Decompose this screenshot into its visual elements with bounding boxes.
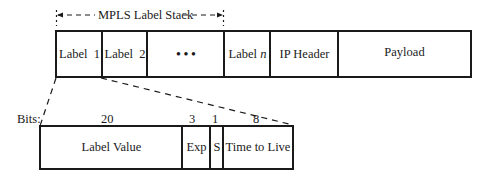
field-ttl: Time to Live xyxy=(222,127,292,168)
cell-text: Label xyxy=(229,47,261,62)
cell-text: Payload xyxy=(384,45,424,60)
bits-count-s: 1 xyxy=(212,112,218,126)
field-text: Exp xyxy=(186,140,206,155)
stack-span-label: MPLS Label Stack xyxy=(98,8,193,22)
field-text: Time to Live xyxy=(226,140,291,155)
label-entry: Label Value Exp S Time to Live xyxy=(39,125,294,170)
packet-cell-label-2: Label 2 xyxy=(101,32,147,76)
ellipsis-text: • • • xyxy=(176,47,195,62)
field-text: Label Value xyxy=(82,140,142,155)
field-exp: Exp xyxy=(181,127,210,168)
bits-count-ttl: 8 xyxy=(253,112,259,126)
packet-cell-payload: Payload xyxy=(337,32,470,76)
cell-text: Label 1 xyxy=(59,47,100,62)
packet-cell-label-n: Label n xyxy=(223,32,270,76)
packet-cell-ip-header: IP Header xyxy=(269,32,338,76)
mpls-packet: Label 1 Label 2 • • • Label n IP Header … xyxy=(55,30,472,78)
bits-count-exp: 3 xyxy=(189,112,195,126)
cell-text: Label 2 xyxy=(105,47,146,62)
packet-cell-label-1: Label 1 xyxy=(57,32,102,76)
field-s: S xyxy=(209,127,223,168)
cell-var: n xyxy=(260,47,266,62)
packet-cell-ellipsis: • • • xyxy=(146,32,224,76)
cell-text: IP Header xyxy=(280,47,330,62)
bits-label: Bits: xyxy=(17,112,41,126)
field-text: S xyxy=(214,140,221,155)
bits-count-label-value: 20 xyxy=(101,112,114,126)
field-label-value: Label Value xyxy=(41,127,182,168)
